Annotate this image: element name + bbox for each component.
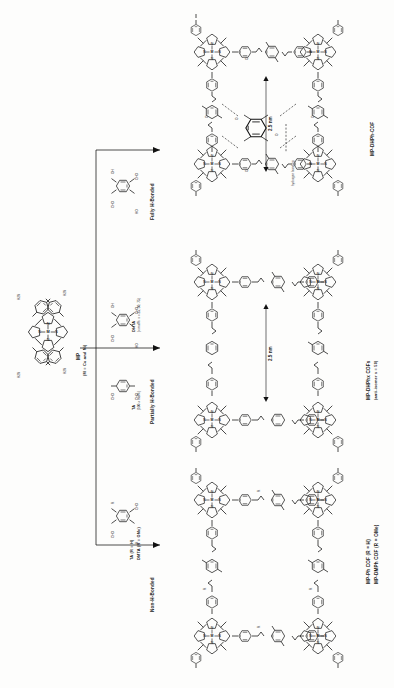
reagent-ta-dmta-bottom <box>112 509 135 524</box>
cof-r-label-1: R <box>204 588 208 590</box>
reagent-cho-label-8: CHO <box>136 503 140 510</box>
reactant-sub-label: (M = Cu and Ni) <box>83 345 87 376</box>
inset-o-label-2: O <box>276 134 280 136</box>
reagent-cho-label-3: CHO <box>112 335 116 342</box>
pore-size-label-mid: 2.5 nm <box>268 345 273 362</box>
cof-r-label-4: R <box>258 626 262 628</box>
reagent-name-ta: TA <box>132 405 136 410</box>
reagent-oh-label-2: OH <box>112 303 116 308</box>
reagent-r-label-1: R <box>112 502 116 504</box>
product-fully-h-bonded <box>191 14 343 196</box>
reagent-ta-mid <box>111 380 135 391</box>
product-non-h-bonded <box>191 468 343 668</box>
hydrogen-bonding-annotation: hydrogen bonding <box>292 160 296 186</box>
outcome-label-non-h-bonded: Non-H-Bonded <box>150 577 155 612</box>
amine-label-3: H2N <box>64 368 68 374</box>
cof-r-label-3: R <box>258 490 262 492</box>
outcome-label-partially-h-bonded: Partially H-Bonded <box>150 379 155 424</box>
product-label-fully-h-bonded: MP-DHPh-COF <box>370 122 375 156</box>
reagent-cho-label-2: CHO <box>136 173 140 180</box>
amine-label-2: H2N <box>18 294 22 300</box>
amine-label-1: H2N <box>64 290 68 296</box>
reagent-cho-label-6: CHO <box>136 393 140 400</box>
product-sub-label-non-h-bonded: MP-DMPh COF (R = OMe) <box>374 525 379 584</box>
inset-o-label-1: O <box>236 118 240 120</box>
product-sub-label-partially-h-bonded: (anti-isomer x = 50) <box>374 360 378 400</box>
reactant-name: MP <box>76 353 81 360</box>
hydrogen-bond-dashes <box>222 104 296 152</box>
outcome-label-fully-h-bonded: Fully H-Bonded <box>150 183 155 220</box>
product-label-non-h-bonded: MP-Ph COF (R = H) <box>366 539 371 584</box>
figure-canvas: N N N N M <box>0 0 394 688</box>
hydroxyl-label-4: O <box>246 170 250 172</box>
reagent-name-dhta: DHTA <box>132 321 136 332</box>
reagent-cho-label-5: CHO <box>112 393 116 400</box>
reagent-dhta-top <box>112 179 135 194</box>
hydroxyl-label-1: O <box>206 116 210 118</box>
reagent-cho-label-1: CHO <box>112 201 116 208</box>
reagent-oh-label-1: OH <box>112 169 116 174</box>
hydroxyl-label-3: O <box>246 58 250 60</box>
hydroxyl-label-2: O <box>312 116 316 118</box>
reagent-stoich-dhta: (x mol%: x = 25, 50, 75) <box>138 298 142 332</box>
reagent-name-ta-h: TA (R = H) <box>130 540 134 560</box>
scheme-drawing: N N N N M <box>0 0 394 688</box>
reaction-arrows <box>80 147 160 548</box>
product-label-partially-h-bonded: MP-DHPhx COFs <box>366 360 371 400</box>
reagent-cho-label-4: CHO <box>136 307 140 314</box>
reactant-porphyrin <box>28 295 67 370</box>
reagent-cho-label-7: CHO <box>112 531 116 538</box>
reagent-ho-label-1: HO <box>136 209 140 214</box>
amine-label-4: H2N <box>18 372 22 378</box>
reagent-r-label-2: R <box>136 542 140 544</box>
reagent-ho-label-2: HO <box>136 343 140 348</box>
pore-size-label-top: 2.5 nm <box>268 115 273 132</box>
product-partially-h-bonded <box>191 250 343 452</box>
cof-r-label-2: R <box>310 588 314 590</box>
